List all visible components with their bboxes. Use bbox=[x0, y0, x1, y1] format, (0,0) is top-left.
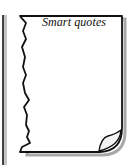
torn-page-illustration: Smart quotes bbox=[0, 0, 131, 167]
page-label: Smart quotes bbox=[28, 15, 120, 30]
adjacent-page-edge bbox=[3, 15, 7, 165]
torn-page bbox=[20, 16, 122, 152]
